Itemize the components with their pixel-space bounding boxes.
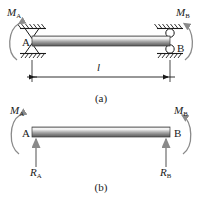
label-node-A: A	[22, 37, 30, 48]
dimension-span	[27, 60, 175, 82]
moment-arc-A-fbd	[11, 115, 20, 154]
label-node-A-fbd: A	[22, 128, 30, 139]
moment-arc-B-fbd	[182, 115, 191, 154]
label-moment-A: MA	[7, 7, 21, 19]
caption-figure-b: (b)	[0, 182, 202, 193]
label-reaction-B: RB	[160, 167, 171, 179]
label-moment-A-fbd: MA	[10, 105, 24, 117]
label-moment-B: MB	[176, 7, 190, 19]
moment-arc-B	[184, 24, 192, 61]
caption-figure-a: (a)	[0, 93, 202, 104]
label-node-B: B	[177, 43, 184, 54]
beam-a	[32, 36, 170, 46]
beam-b	[32, 127, 170, 137]
label-node-B-fbd: B	[174, 128, 181, 139]
moment-arc-A	[10, 24, 19, 61]
label-reaction-A: RA	[30, 167, 42, 179]
label-moment-B-fbd: MB	[174, 105, 188, 117]
label-span-length: l	[97, 62, 100, 73]
